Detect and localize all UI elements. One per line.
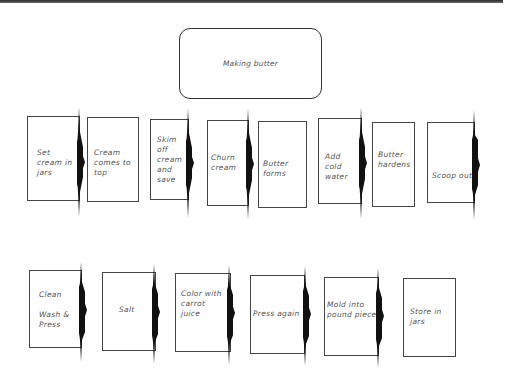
arrow-right-icon — [183, 108, 197, 218]
arrow-right-icon — [356, 107, 370, 219]
arrow-right-icon — [76, 262, 90, 362]
step-label: Color with carrot juice — [181, 289, 222, 319]
step-label: Scoop out — [432, 171, 472, 181]
step-scoop-out — [427, 122, 475, 203]
title-node: Making butter — [179, 28, 322, 99]
step-label: Salt — [119, 305, 135, 315]
step-label: Clean Wash & Press — [39, 290, 69, 330]
top-border-bar — [0, 0, 503, 3]
step-label: Store in jars — [410, 307, 442, 327]
step-label: Butter forms — [263, 159, 288, 179]
step-label: Set cream in jars — [37, 148, 72, 178]
arrow-right-icon — [469, 110, 483, 220]
step-label: Press again — [253, 309, 300, 319]
step-label: Churn cream — [211, 153, 236, 173]
step-label: Butter hardens — [378, 150, 411, 170]
title-text: Making butter — [223, 59, 278, 68]
arrow-right-icon — [224, 265, 238, 365]
step-label: Cream comes to top — [94, 148, 131, 178]
arrow-right-icon — [149, 264, 163, 364]
arrow-right-icon — [74, 107, 88, 217]
arrow-right-icon — [300, 266, 314, 366]
arrow-right-icon — [243, 108, 257, 220]
step-label: Add cold water — [325, 152, 348, 182]
step-label: Skim off cream and save — [157, 135, 182, 185]
arrow-right-icon — [373, 268, 387, 368]
